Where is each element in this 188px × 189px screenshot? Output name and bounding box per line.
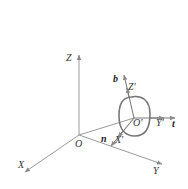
global-axes <box>25 55 162 172</box>
n-label: n <box>101 133 107 144</box>
diagram-canvas: Z X Y O O' b Z' Y' t n X' <box>0 0 188 189</box>
frame-diagram: Z X Y O O' b Z' Y' t n X' <box>0 0 188 189</box>
x-axis-label: X <box>17 159 25 170</box>
z-prime-label: Z' <box>128 81 137 92</box>
y-axis-label: Y <box>153 165 160 176</box>
x-prime-label: X' <box>114 134 124 145</box>
z-axis-label: Z <box>66 52 72 63</box>
origin-label: O <box>75 138 82 149</box>
t-label: t <box>172 118 176 129</box>
local-origin-label: O' <box>133 117 143 128</box>
y-prime-label: Y' <box>156 117 165 128</box>
x-axis <box>25 135 79 172</box>
b-label: b <box>113 73 118 84</box>
